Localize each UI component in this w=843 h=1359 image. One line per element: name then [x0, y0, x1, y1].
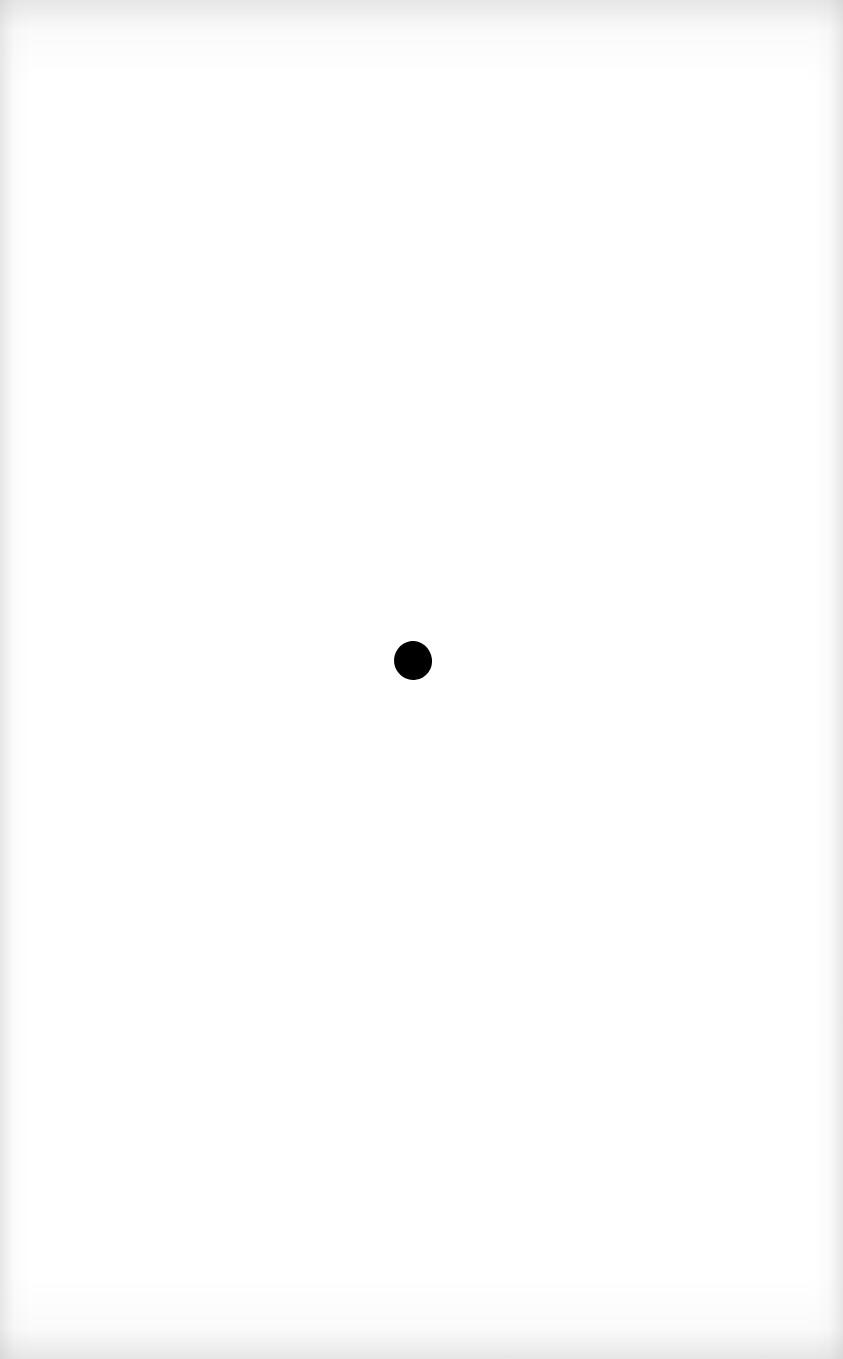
- document-page: [0, 0, 843, 1359]
- black-dot-mark: [391, 639, 434, 683]
- scan-edge-shading: [0, 0, 843, 1359]
